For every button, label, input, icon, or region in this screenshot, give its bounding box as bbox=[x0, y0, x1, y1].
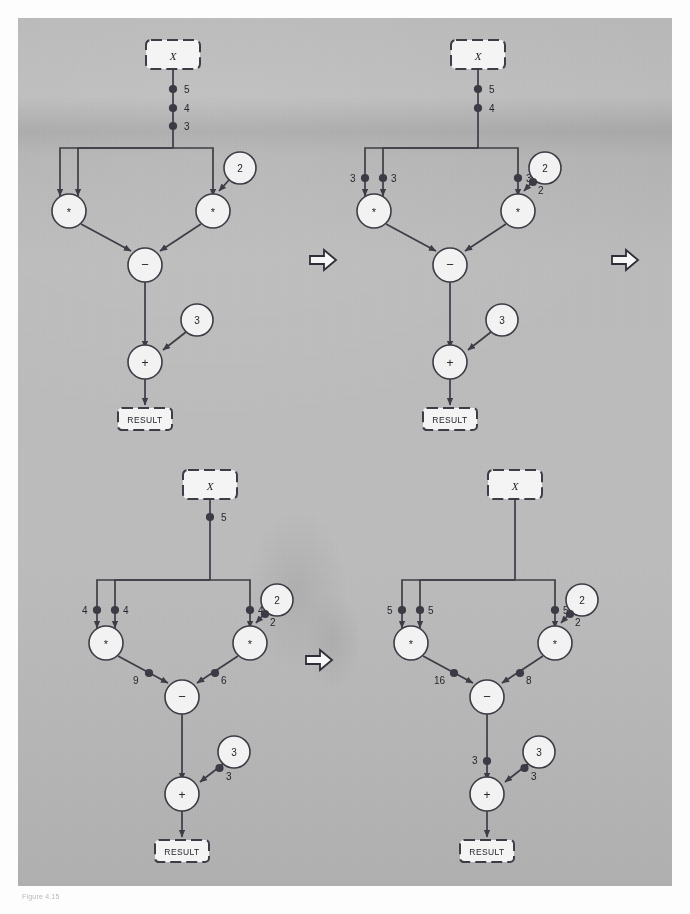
token-value: 5 bbox=[428, 605, 434, 616]
token-dot bbox=[215, 764, 223, 772]
input-box-label: X bbox=[169, 50, 178, 62]
input-box: X bbox=[146, 40, 200, 69]
arc-to-mul-left-a bbox=[402, 580, 515, 628]
token-value: 2 bbox=[575, 617, 581, 628]
figure-caption: Figure 4.15 bbox=[22, 893, 60, 900]
arc-to-mul-right-a bbox=[478, 148, 518, 196]
token-dot bbox=[379, 174, 387, 182]
token-value: 4 bbox=[184, 103, 190, 114]
arc-const3-to-add bbox=[163, 332, 186, 350]
arc-to-mul-left-b bbox=[420, 580, 515, 628]
token-value: 4 bbox=[82, 605, 88, 616]
operator-symbol: + bbox=[483, 788, 490, 802]
const-value: 3 bbox=[194, 315, 200, 326]
token-dot bbox=[566, 610, 574, 618]
arc-to-mul-left-a bbox=[60, 148, 173, 196]
const-value: 3 bbox=[536, 747, 542, 758]
arc-to-mul-left-b bbox=[383, 148, 478, 196]
token-value: 5 bbox=[387, 605, 393, 616]
input-box-label: X bbox=[206, 480, 215, 492]
operator-symbol: + bbox=[446, 356, 453, 370]
token-dot bbox=[246, 606, 254, 614]
token-dot bbox=[514, 174, 522, 182]
result-box-label: RESULT bbox=[127, 415, 162, 425]
const-value: 2 bbox=[237, 163, 243, 174]
token-value: 3 bbox=[472, 755, 478, 766]
token-dot bbox=[111, 606, 119, 614]
token-value: 2 bbox=[270, 617, 276, 628]
token-dot bbox=[551, 606, 559, 614]
token-value: 3 bbox=[226, 771, 232, 782]
arc-to-mul-right-a bbox=[515, 580, 555, 628]
figure-page: X 5 4 3 2 * * bbox=[0, 0, 690, 914]
arc-to-mul-right-a bbox=[210, 580, 250, 628]
token-value: 4 bbox=[489, 103, 495, 114]
token-value: 5 bbox=[184, 84, 190, 95]
arc-mul-left-to-sub bbox=[386, 224, 436, 251]
arc-to-mul-right-a bbox=[173, 148, 213, 196]
diagram-step-2: X 5 4 3 3 3 2 2 * bbox=[350, 40, 561, 430]
token-dot bbox=[529, 178, 537, 186]
arc-mul-left-to-sub bbox=[118, 656, 168, 683]
step-arrow-2 bbox=[612, 250, 638, 270]
operator-symbol: + bbox=[141, 356, 148, 370]
token-dot bbox=[450, 669, 458, 677]
token-value: 8 bbox=[526, 675, 532, 686]
token-value: 5 bbox=[489, 84, 495, 95]
input-box: X bbox=[488, 470, 542, 499]
token-dot bbox=[483, 757, 491, 765]
input-box-label: X bbox=[511, 480, 520, 492]
dataflow-diagrams: X 5 4 3 2 * * bbox=[0, 0, 690, 914]
diagram-step-4: X 5 5 5 2 2 * * 16 8 bbox=[387, 470, 598, 862]
arc-mul-right-to-sub bbox=[465, 224, 506, 251]
right-block-arrow-icon bbox=[310, 250, 336, 270]
token-dot bbox=[169, 85, 177, 93]
operator-symbol: * bbox=[372, 206, 377, 218]
result-box: RESULT bbox=[155, 840, 209, 862]
arc-mul-right-to-sub bbox=[197, 656, 238, 683]
operator-symbol: * bbox=[248, 638, 253, 650]
operator-symbol: * bbox=[409, 638, 414, 650]
token-dot bbox=[261, 610, 269, 618]
arc-to-mul-left-a bbox=[365, 148, 478, 196]
arc-to-mul-left-b bbox=[115, 580, 210, 628]
operator-symbol: * bbox=[516, 206, 521, 218]
diagram-step-1: X 5 4 3 2 * * bbox=[52, 40, 256, 430]
diagram-step-3: X 5 4 4 4 2 2 * * 9 bbox=[82, 470, 293, 862]
input-box: X bbox=[451, 40, 505, 69]
token-value: 5 bbox=[221, 512, 227, 523]
const-value: 2 bbox=[542, 163, 548, 174]
result-box: RESULT bbox=[118, 408, 172, 430]
operator-symbol: * bbox=[211, 206, 216, 218]
token-value: 3 bbox=[531, 771, 537, 782]
input-box-label: X bbox=[474, 50, 483, 62]
token-dot bbox=[206, 513, 214, 521]
arc-mul-left-to-sub bbox=[81, 224, 131, 251]
const-value: 3 bbox=[231, 747, 237, 758]
token-value: 9 bbox=[133, 675, 139, 686]
token-dot bbox=[474, 85, 482, 93]
token-dot bbox=[211, 669, 219, 677]
token-value: 16 bbox=[434, 675, 446, 686]
result-box: RESULT bbox=[423, 408, 477, 430]
const-value: 2 bbox=[274, 595, 280, 606]
step-arrow-3 bbox=[306, 650, 332, 670]
operator-symbol: + bbox=[178, 788, 185, 802]
token-dot bbox=[93, 606, 101, 614]
token-dot bbox=[520, 764, 528, 772]
token-dot bbox=[398, 606, 406, 614]
operator-symbol: * bbox=[553, 638, 558, 650]
arc-to-mul-left-b bbox=[78, 148, 173, 196]
operator-symbol: * bbox=[104, 638, 109, 650]
operator-symbol: * bbox=[67, 206, 72, 218]
operator-symbol: − bbox=[483, 689, 491, 704]
const-value: 2 bbox=[579, 595, 585, 606]
input-box: X bbox=[183, 470, 237, 499]
operator-symbol: − bbox=[141, 257, 149, 272]
token-dot bbox=[516, 669, 524, 677]
arc-const3-to-add bbox=[468, 332, 491, 350]
right-block-arrow-icon bbox=[612, 250, 638, 270]
token-dot bbox=[169, 104, 177, 112]
token-dot bbox=[416, 606, 424, 614]
result-box-label: RESULT bbox=[469, 847, 504, 857]
